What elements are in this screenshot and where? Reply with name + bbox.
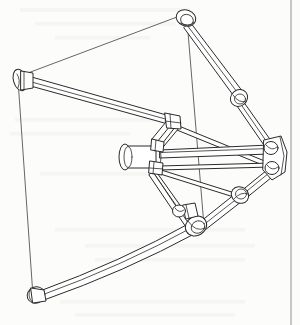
- hub-joint-lower: [149, 161, 163, 175]
- mid-joint-upper: [165, 113, 181, 129]
- hub-flange-inner: [124, 147, 132, 168]
- figure-canvas: Parallel kinematic manipulator Technical…: [0, 0, 300, 325]
- line-drawing-svg: [0, 0, 300, 325]
- platform-joint-block-right: [263, 136, 287, 180]
- knee-joint-lower-left-mid: [173, 205, 186, 217]
